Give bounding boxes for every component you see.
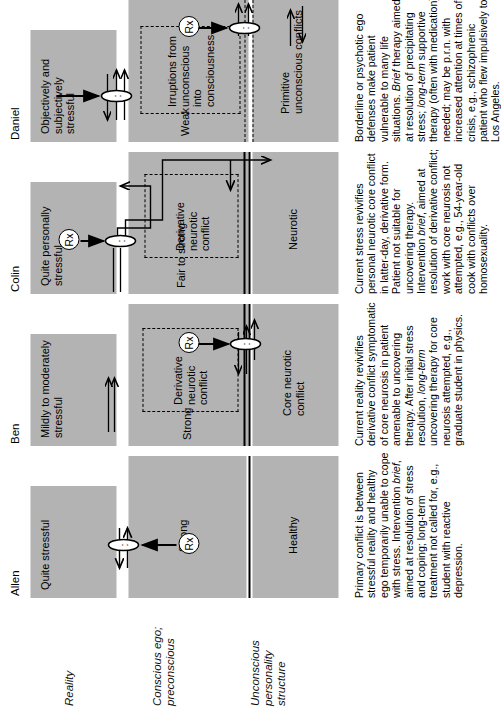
case-caption-colin: Current stress revivifies personal neuro…: [352, 148, 488, 294]
unconscious-band-daniel: Primitive unconscious conflicts: [252, 0, 338, 142]
case-title-daniel: Daniel: [8, 107, 20, 140]
case-title-allen: Allen: [8, 570, 20, 596]
reality-band-daniel: Objectively and subjectively stressful: [30, 30, 116, 142]
case-title-ben: Ben: [8, 424, 20, 444]
case-column-allen: Allen Quite stressful Strong Healthy: [0, 450, 501, 602]
ego-unconscious-divider2-colin: [243, 152, 245, 294]
figure-rotation-wrapper: Reality Conscious ego; preconscious Unco…: [0, 0, 501, 714]
diagram-canvas: Reality Conscious ego; preconscious Unco…: [0, 0, 501, 714]
row-label-reality: Reality: [62, 610, 75, 706]
case-caption-ben: Current reality revivifies derivative co…: [352, 300, 464, 446]
row-label-unconscious-structure: Unconscious personality structure: [248, 610, 287, 706]
derivative-conflict-box-colin: Derivative neurotic conflict: [144, 174, 238, 258]
case-column-ben: Ben Mildly to moderately stressful Stron…: [0, 298, 501, 450]
unconscious-band-allen: Healthy: [252, 456, 338, 598]
ego-band-allen: Strong: [128, 456, 246, 598]
rx-token-ben[interactable]: Rx: [178, 333, 199, 354]
ego-unconscious-divider-allen: [248, 456, 250, 598]
row-labels: Reality Conscious ego; preconscious Unco…: [0, 610, 501, 706]
rx-token-colin[interactable]: Rx: [58, 230, 79, 251]
case-caption-daniel: Borderline or psychotic ego defenses mak…: [352, 0, 501, 142]
ego-unconscious-divider-colin: [248, 152, 250, 294]
case-title-colin: Colin: [8, 266, 20, 292]
case-caption-allen: Primary conflict is between stressful re…: [352, 452, 464, 598]
reality-text-allen: Quite stressful: [38, 492, 51, 590]
derivative-conflict-text-colin: Derivative neurotic conflict: [173, 181, 211, 251]
unconscious-text-colin: Neurotic: [286, 130, 299, 250]
reality-band-allen: Quite stressful: [30, 486, 116, 598]
unconscious-text-allen: Healthy: [286, 434, 299, 554]
reality-text-ben: Mildly to moderately stressful: [38, 340, 63, 438]
rx-token-daniel[interactable]: Rx: [178, 17, 199, 38]
ego-unconscious-dashed-divider-daniel: [244, 0, 245, 142]
ego-band-colin: Fair to strong Derivative neurotic confl…: [128, 152, 248, 294]
ego-unconscious-divider-ben: [248, 304, 250, 446]
case-column-daniel: Daniel Objectively and subjectively stre…: [0, 0, 501, 146]
ego-strength-ben: Strong: [180, 408, 192, 440]
row-label-conscious-ego: Conscious ego; preconscious: [150, 610, 176, 706]
unconscious-text-ben: Core neurotic conflict: [280, 316, 305, 416]
rx-token-allen[interactable]: Rx: [178, 534, 199, 555]
ego-unconscious-divider2-ben: [243, 304, 245, 446]
reality-band-ben: Mildly to moderately stressful: [30, 334, 116, 446]
svg-text::: :: [117, 543, 129, 546]
ego-unconscious-dashed-divider2-daniel: [252, 0, 253, 142]
irruptions-text-daniel: Irruptions from unconscious into conscio…: [165, 33, 215, 107]
unconscious-text-daniel: Primitive unconscious conflicts: [278, 10, 303, 114]
case-column-colin: Colin Quite personally stressful Fair to…: [0, 146, 501, 298]
reality-text-daniel: Objectively and subjectively stressful: [38, 36, 76, 134]
unconscious-band-ben: Core neurotic conflict: [252, 304, 338, 446]
unconscious-band-colin: Neurotic: [252, 152, 338, 294]
irruptions-box-daniel: Irruptions from unconscious into conscio…: [140, 26, 240, 114]
ego-band-ben: Strong Derivative neurotic conflict: [128, 304, 248, 446]
